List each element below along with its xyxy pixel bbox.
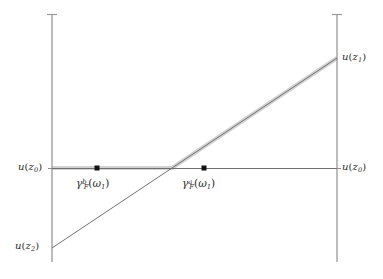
label-u-z2-close: ) (35, 240, 39, 251)
label-u-z1: u(z1) (342, 52, 366, 63)
label-gamma-a: γaF(ω1) (182, 178, 215, 191)
lottery-utility-line (52, 58, 337, 248)
label-u-z2: u(z2) (15, 241, 39, 252)
utility-lottery-figure: u(z0) u(z0) u(z1) u(z2) γbF(ω1) γaF(ω1) (0, 0, 383, 279)
label-u-z1-close: ) (362, 51, 366, 62)
label-gamma-b-close: ) (105, 177, 109, 189)
label-gamma-b: γbF(ω1) (76, 178, 109, 191)
gamma-b-point-marker (95, 166, 100, 171)
gamma-a-point-marker (202, 166, 207, 171)
plot-canvas (0, 0, 383, 279)
label-u-z0-right-close: ) (362, 161, 366, 172)
label-gamma-a-close: ) (211, 177, 215, 189)
label-u-z0-right: u(z0) (342, 162, 366, 173)
upper-envelope-highlight (52, 58, 337, 168)
label-gamma-a-omega: ω (198, 177, 207, 189)
label-gamma-b-omega: ω (92, 177, 101, 189)
label-u-z0-left: u(z0) (18, 162, 42, 173)
label-u-z0-left-close: ) (38, 161, 42, 172)
